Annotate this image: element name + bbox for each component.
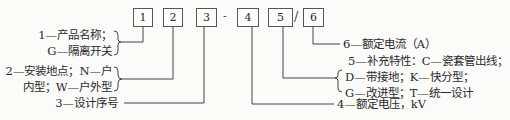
- code-box-6: 6: [303, 8, 324, 27]
- legend-item4: 4—额定电压，kV: [337, 97, 426, 111]
- dash-separator: -: [223, 8, 227, 25]
- slash-separator: /: [294, 8, 298, 25]
- legend-item5-line2: D—带接地；K—快分型；: [345, 70, 474, 84]
- legend-item2-line2: 内型；W—户外型: [23, 80, 112, 94]
- legend-item3: 3—设计序号: [55, 96, 118, 110]
- legend-item2-line1: 2—安装地点；N—户: [6, 64, 112, 78]
- legend-item5-line1: 5—补充特性：C—瓷套管出线；: [348, 54, 508, 68]
- code-box-4: 4: [237, 8, 259, 27]
- legend-item1-line1: 1—产品名称；: [38, 28, 112, 42]
- code-box-1: 1: [133, 8, 153, 27]
- code-box-5: 5: [268, 8, 293, 27]
- legend-item1-line2: G—隔离开关: [47, 44, 112, 58]
- code-box-2: 2: [163, 8, 183, 27]
- legend-item6: 6—额定电流（A）: [343, 37, 436, 51]
- code-box-3: 3: [196, 8, 217, 27]
